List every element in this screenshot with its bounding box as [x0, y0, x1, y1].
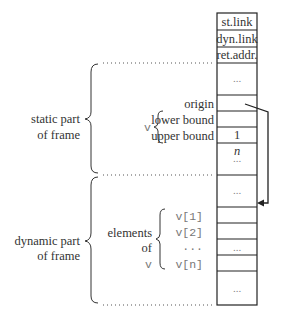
- element-ellipsis: ...: [182, 240, 203, 253]
- cell-lower-bound-value: 1: [234, 128, 240, 142]
- elements-label-line3: v: [145, 258, 152, 271]
- cell-ellipsis-4: ...: [233, 241, 242, 253]
- elements-label-line1: elements: [108, 226, 153, 240]
- cell-st-link: st.link: [222, 15, 254, 29]
- elements-brace-icon: [156, 209, 165, 269]
- static-brace-icon: [85, 64, 98, 173]
- static-label-line2: of frame: [37, 128, 80, 142]
- cell-ret-addr: ret.addr.: [217, 48, 258, 62]
- static-label-line1: static part: [31, 112, 80, 126]
- cell-dyn-link: dyn.link: [216, 32, 258, 46]
- dynamic-label-line1: dynamic part: [14, 234, 80, 248]
- array-name-v: v: [144, 121, 151, 134]
- element-v2: v[2]: [175, 226, 203, 239]
- element-v1: v[1]: [175, 210, 203, 223]
- elements-label-line2: of: [142, 241, 153, 255]
- dynamic-brace-icon: [85, 177, 98, 303]
- stack-frame-diagram: st.link dyn.link ret.addr. ... 1 n ... .…: [0, 0, 283, 317]
- field-origin: origin: [184, 97, 215, 111]
- cell-ellipsis-2: ...: [233, 152, 242, 164]
- cell-ellipsis-3: ...: [233, 184, 242, 196]
- element-vn: v[n]: [175, 258, 203, 271]
- arrowhead-icon: [257, 200, 264, 207]
- cell-ellipsis-1: ...: [233, 72, 242, 84]
- dynamic-label-line2: of frame: [37, 249, 80, 263]
- field-lower-bound: lower bound: [151, 113, 215, 127]
- field-upper-bound: upper bound: [151, 129, 215, 143]
- cell-ellipsis-5: ...: [233, 282, 242, 294]
